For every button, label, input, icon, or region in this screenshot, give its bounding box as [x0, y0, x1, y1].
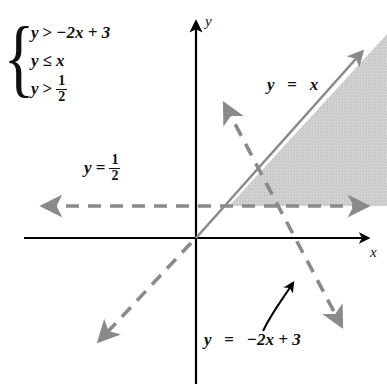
label-line-y-equals-x: y = x: [267, 76, 318, 93]
label-yhalf-lhs: y: [84, 159, 92, 176]
inequality-3-denominator: 2: [56, 89, 67, 105]
x-axis-label: x: [370, 245, 377, 260]
y-axis-label: y: [205, 14, 212, 29]
label-yx-lhs: y: [267, 75, 275, 94]
label-yhalf-numerator: 1: [109, 153, 120, 168]
label-y2x3-relation: =: [224, 330, 234, 349]
shaded-solution-region: [229, 34, 387, 206]
inequality-1-relation: >: [43, 23, 53, 43]
inequality-row-3: y > 1 2: [31, 78, 110, 99]
inequality-graph-figure: { y > −2x + 3 y ≤ x y > 1: [0, 0, 387, 384]
line-y-equals-x-dashed: [100, 243, 191, 340]
brace-symbol: {: [14, 19, 25, 96]
label-line-y-equals-one-half: y = 1 2: [84, 152, 120, 182]
label-yhalf-fraction: 1 2: [109, 153, 120, 183]
label-yhalf-relation: =: [96, 159, 106, 176]
inequality-2-relation: ≤: [43, 51, 52, 71]
inequality-3-relation: >: [43, 79, 53, 99]
inequality-list: y > −2x + 3 y ≤ x y > 1 2: [26, 22, 110, 99]
label-yx-relation: =: [287, 75, 297, 94]
label-yhalf-denominator: 2: [109, 168, 120, 184]
inequality-2-rhs: x: [56, 51, 65, 71]
system-of-inequalities: { y > −2x + 3 y ≤ x y > 1: [12, 22, 110, 99]
label-pointer-arrow: [263, 283, 293, 331]
label-y2x3-lhs: y: [204, 330, 212, 349]
label-yx-rhs: x: [310, 75, 319, 94]
label-line-y-equals-neg2x-plus-3: y = −2x + 3: [204, 331, 301, 348]
inequality-row-2: y ≤ x: [31, 50, 110, 71]
inequality-1-rhs: −2x + 3: [56, 23, 110, 43]
inequality-3-numerator: 1: [56, 74, 67, 89]
inequality-row-1: y > −2x + 3: [31, 22, 110, 43]
label-y2x3-rhs: −2x + 3: [247, 330, 301, 349]
inequality-3-fraction: 1 2: [56, 74, 67, 104]
